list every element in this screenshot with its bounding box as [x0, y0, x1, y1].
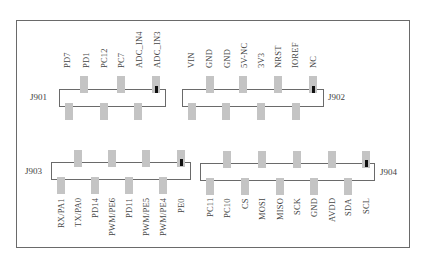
pin-pad [241, 178, 249, 195]
pin-pad [65, 103, 73, 120]
pin-label: PC11 [205, 198, 215, 217]
pin-pad [134, 103, 142, 120]
pin1-marker [365, 160, 368, 167]
pin-label: 3V3 [256, 53, 266, 68]
pin1-marker [180, 159, 183, 166]
pin-label: NRST [273, 45, 283, 68]
pin-pad [344, 178, 352, 195]
pin-pad [292, 103, 300, 120]
pin-label: PD14 [90, 198, 100, 218]
header-outline-j901 [59, 89, 166, 107]
pin-label: AVDD [327, 198, 337, 222]
connector-label-j902: J902 [328, 92, 345, 102]
pin-label: PWM/PE5 [141, 198, 151, 236]
pin-label: GND [222, 49, 232, 68]
pin-label: NC [308, 56, 318, 68]
connector-label-j903: J903 [25, 166, 42, 176]
pin-label: ADC_IN3 [152, 31, 162, 68]
connector-label-j901: J901 [30, 92, 47, 102]
pin-label: PC12 [99, 48, 109, 68]
connector-label-j904: J904 [380, 167, 397, 177]
pin-pad [159, 177, 167, 194]
pin-label: PWM/PE6 [107, 198, 117, 236]
pin-pad [100, 103, 108, 120]
pin-pad [108, 150, 116, 167]
pin-label: SDA [343, 198, 353, 216]
pin-label: PC10 [222, 198, 232, 218]
pin-pad [257, 103, 265, 120]
pin-label: IOREF [290, 42, 300, 68]
pin-label: GND [309, 198, 319, 217]
pin-pad [206, 178, 214, 195]
pin-label: MOSI [257, 198, 267, 220]
pin-label: GND [204, 49, 214, 68]
pin-pad [239, 76, 247, 93]
pin-pad [310, 178, 318, 195]
pin-pad [125, 177, 133, 194]
pin-label: 5V-NC [239, 43, 249, 68]
pin-label: PWM/PE4 [158, 198, 168, 236]
pin-pad [274, 76, 282, 93]
pin-label: TX/PA0 [73, 198, 83, 227]
pin-label: ADC_IN4 [134, 31, 144, 68]
pin-label: CS [240, 198, 250, 209]
pin-label: PD11 [124, 198, 134, 218]
pin-pad [293, 151, 301, 168]
pin-pad [188, 103, 196, 120]
pin-label: VIN [186, 52, 196, 68]
pin-label: SCL [361, 198, 371, 214]
pin-pad [223, 151, 231, 168]
pin-pad [206, 76, 214, 93]
header-outline-j902 [182, 89, 324, 107]
pin-pad [222, 103, 230, 120]
pin-pad [142, 150, 150, 167]
pin1-marker [312, 86, 315, 93]
pin-label: PE0 [176, 198, 186, 213]
pin-label: SCK [292, 198, 302, 215]
header-outline-j903 [51, 162, 191, 180]
pin-pad [91, 177, 99, 194]
pin-pad [276, 178, 284, 195]
pin-pad [74, 150, 82, 167]
pin-label: PD1 [81, 52, 91, 68]
pin-label: RX/PA1 [56, 198, 66, 228]
pin-pad [117, 76, 125, 93]
pin-label: MISO [275, 198, 285, 220]
pin-label: PD7 [62, 52, 72, 68]
pin1-marker [155, 86, 158, 93]
pin-pad [80, 76, 88, 93]
pin-label: PC7 [116, 53, 126, 68]
pin-pad [328, 151, 336, 168]
pin-pad [258, 151, 266, 168]
pin-pad [57, 177, 65, 194]
